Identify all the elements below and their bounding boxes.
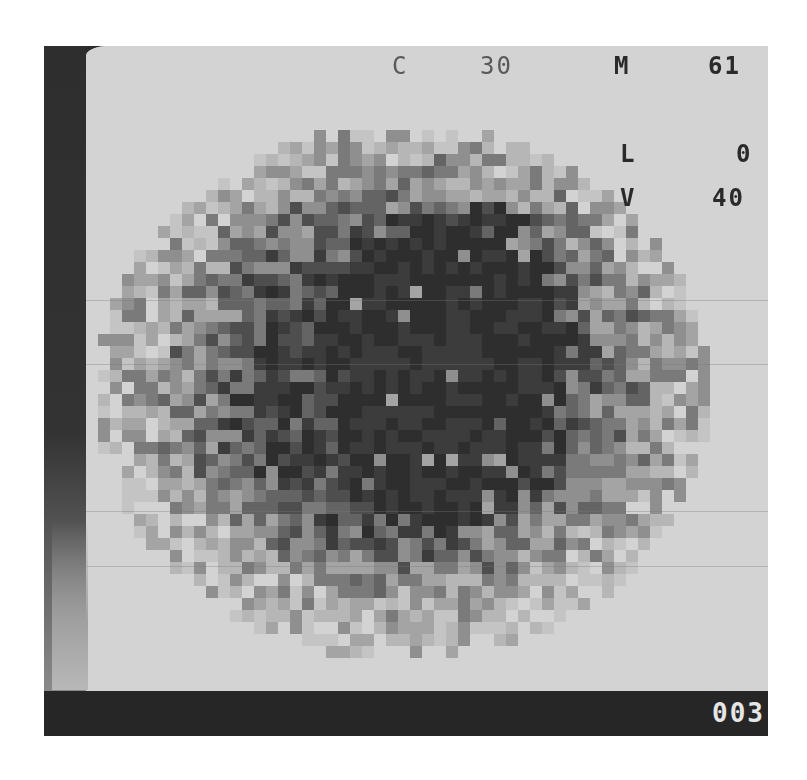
readout-l-label: L xyxy=(620,142,636,166)
readout-v-label: V xyxy=(620,186,636,210)
readout-m-value: 61 xyxy=(708,54,741,78)
screen-edge-glow xyxy=(52,520,88,690)
scan-image xyxy=(86,46,768,691)
scanline-artifact xyxy=(86,300,768,301)
frame-counter: 003 xyxy=(712,698,765,728)
scan-screen: C 30 M 61 L 0 V 40 xyxy=(86,46,768,691)
readout-m-label: M xyxy=(614,54,630,78)
monitor-bottom-bezel xyxy=(44,691,768,736)
readout-l-value: 0 xyxy=(736,142,752,166)
readout-c-value: 30 xyxy=(480,54,513,78)
scanline-artifact xyxy=(86,566,768,567)
scanline-artifact xyxy=(86,511,768,512)
scanline-artifact xyxy=(86,364,768,365)
readout-v-value: 40 xyxy=(712,186,745,210)
readout-c-label: C xyxy=(392,54,408,78)
